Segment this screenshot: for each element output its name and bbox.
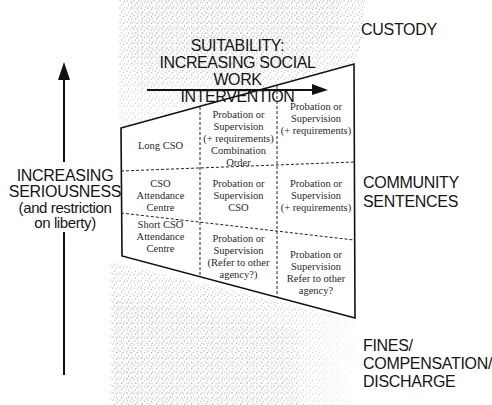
community-line-2: SENTENCES	[363, 192, 459, 211]
cell-line: Probation or	[200, 233, 277, 245]
cell-line: (+ requirements)	[278, 125, 354, 137]
cell-cso-attendance: CSO Attendance Centre	[121, 178, 200, 214]
cell-line: Supervision	[278, 190, 354, 202]
seriousness-label: INCREASING SERIOUSNESS (and restriction …	[2, 168, 128, 230]
cell-probation-refer-mid: Probation or Supervision (Refer to other…	[200, 233, 277, 281]
cell-line: Probation or	[278, 101, 354, 113]
seriousness-line-3: (and restriction	[2, 200, 128, 215]
cell-line: Attendance	[121, 231, 200, 243]
heading-line-1: SUITABILITY:	[135, 37, 340, 54]
suitability-heading: SUITABILITY: INCREASING SOCIAL WORK INTE…	[135, 37, 340, 105]
cell-line: Supervision	[200, 190, 277, 202]
cell-line: Centre	[121, 202, 200, 214]
cell-line: Order	[200, 157, 277, 169]
cell-line: (+ requirements)	[278, 202, 354, 214]
cell-line: Supervision	[200, 245, 277, 257]
cell-line: Refer to other	[278, 273, 354, 285]
cell-long-cso: Long CSO	[121, 140, 200, 152]
cell-line: Short CSO	[121, 219, 200, 231]
cell-line: Long CSO	[121, 140, 200, 152]
cell-probation-cso: Probation or Supervision CSO	[200, 178, 277, 214]
cell-line: (Refer to other	[200, 257, 277, 269]
cell-probation-combination: Probation or Supervision (+ requirements…	[200, 109, 277, 169]
heading-line-2: INCREASING SOCIAL WORK	[135, 54, 340, 88]
cell-line: Supervision	[278, 261, 354, 273]
community-line-1: COMMUNITY	[363, 173, 459, 192]
fines-line-2: COMPENSATION/	[363, 355, 492, 373]
cell-line: Attendance	[121, 190, 200, 202]
fines-label: FINES/ COMPENSATION/ DISCHARGE	[363, 337, 492, 391]
cell-line: agency?)	[200, 269, 277, 281]
seriousness-line-4: on liberty)	[2, 215, 128, 230]
seriousness-line-1: INCREASING	[2, 168, 128, 184]
cell-line: agency?	[278, 285, 354, 297]
cell-line: Probation or	[200, 109, 277, 121]
cell-line: Probation or	[278, 178, 354, 190]
fines-line-3: DISCHARGE	[363, 373, 492, 391]
custody-label: CUSTODY	[361, 22, 437, 38]
cell-line: Supervision	[278, 113, 354, 125]
cell-line: CSO	[121, 178, 200, 190]
cell-probation-refer-right: Probation or Supervision Refer to other …	[278, 249, 354, 297]
cell-line: Probation or	[200, 178, 277, 190]
cell-line: Supervision	[200, 121, 277, 133]
fines-line-1: FINES/	[363, 337, 492, 355]
cell-line: CSO	[200, 202, 277, 214]
cell-probation-requirements-mid: Probation or Supervision (+ requirements…	[278, 178, 354, 214]
seriousness-line-2: SERIOUSNESS	[2, 184, 128, 200]
cell-line: Combination	[200, 145, 277, 157]
cell-line: (+ requirements)	[200, 133, 277, 145]
cell-short-cso: Short CSO Attendance Centre	[121, 219, 200, 255]
cell-line: Probation or	[278, 249, 354, 261]
cell-line: Centre	[121, 243, 200, 255]
cell-probation-requirements-top: Probation or Supervision (+ requirements…	[278, 101, 354, 137]
community-sentences-label: COMMUNITY SENTENCES	[363, 173, 459, 211]
